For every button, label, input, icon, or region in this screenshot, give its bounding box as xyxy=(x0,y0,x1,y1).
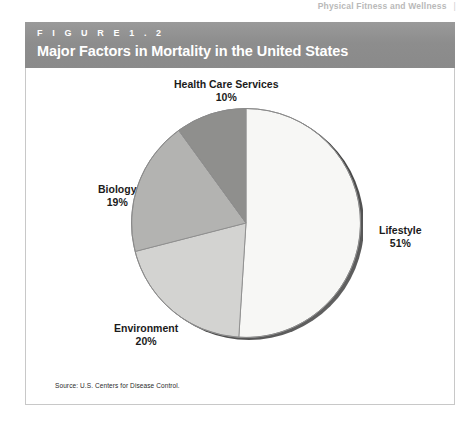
pie-label-health-care-services-value: 10% xyxy=(174,91,278,104)
pie-label-lifestyle: Lifestyle 51% xyxy=(379,224,422,250)
pie-label-health-care-services: Health Care Services 10% xyxy=(174,78,278,104)
running-head-rule: | xyxy=(454,1,456,11)
pie-chart-svg xyxy=(131,100,363,348)
pie-label-environment: Environment 20% xyxy=(114,322,178,348)
pie-label-lifestyle-value: 51% xyxy=(379,237,422,250)
running-head-text: Physical Fitness and Wellness xyxy=(318,1,447,11)
pie-slice-group xyxy=(132,108,361,337)
figure-header-band: F I G U R E 1 . 2 Major Factors in Morta… xyxy=(25,22,455,68)
figure-1-2: F I G U R E 1 . 2 Major Factors in Morta… xyxy=(25,22,455,405)
pie-label-environment-name: Environment xyxy=(114,322,178,334)
figure-title: Major Factors in Mortality in the United… xyxy=(37,41,455,61)
pie-label-biology-name: Biology xyxy=(98,183,137,195)
pie-slice-lifestyle xyxy=(239,108,361,337)
pie-label-environment-value: 20% xyxy=(114,335,178,348)
pie-label-biology: Biology 19% xyxy=(98,183,137,209)
pie-label-biology-value: 19% xyxy=(98,196,137,209)
figure-body: Health Care Services 10% Biology 19% Env… xyxy=(25,68,455,405)
source-note: Source: U.S. Centers for Disease Control… xyxy=(55,382,180,389)
running-head: Physical Fitness and Wellness| xyxy=(318,1,456,11)
pie-chart xyxy=(131,100,363,348)
pie-label-lifestyle-name: Lifestyle xyxy=(379,224,422,236)
pie-label-health-care-services-name: Health Care Services xyxy=(174,78,278,90)
figure-number-label: F I G U R E 1 . 2 xyxy=(37,27,455,39)
